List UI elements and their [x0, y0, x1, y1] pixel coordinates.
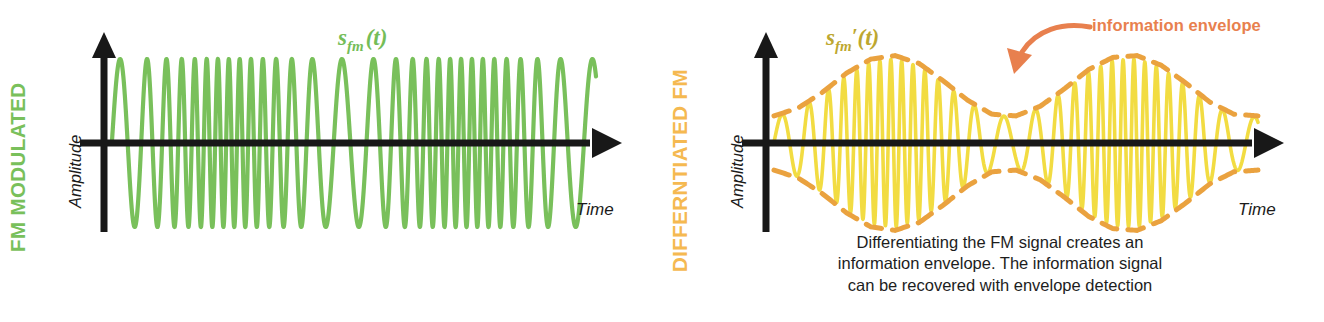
annotation-arrowhead — [1007, 48, 1032, 74]
signal-argument: (t) — [364, 25, 388, 50]
caption-line-2: information envelope. The information si… — [790, 253, 1210, 274]
caption-line-3: can be recovered with envelope detection — [790, 275, 1210, 296]
signal-argument: (t) — [858, 25, 880, 50]
fm-modulated-plot — [0, 0, 662, 322]
section-label-fm-modulated: FM MODULATED — [6, 82, 30, 252]
caption-line-1: Differentiating the FM signal creates an — [790, 232, 1210, 253]
y-axis-arrowhead — [754, 32, 778, 58]
y-axis-label-amplitude: Amplitude — [66, 135, 85, 208]
signal-subscript: fm — [835, 38, 852, 54]
x-axis-label-time: Time — [1238, 200, 1276, 220]
panel-fm-modulated: FM MODULATED Amplitude Time sfm(t) — [0, 0, 662, 322]
signal-base: s — [338, 25, 347, 50]
signal-subscript: fm — [347, 38, 364, 54]
section-label-differentiated-fm: DIFFERNTIATED FM — [668, 69, 692, 272]
signal-label-sfm: sfm(t) — [338, 26, 387, 54]
signal-label-sfm-prime: sfm′(t) — [826, 26, 879, 54]
y-axis-label-amplitude: Amplitude — [728, 135, 747, 208]
signal-base: s — [826, 25, 835, 50]
caption-differentiated-fm: Differentiating the FM signal creates an… — [790, 232, 1210, 296]
annotation-arrow-curve — [1022, 26, 1090, 52]
y-axis-arrowhead — [92, 32, 116, 58]
x-axis-arrowhead — [592, 128, 622, 158]
x-axis-arrowhead — [1254, 128, 1284, 158]
annotation-information-envelope: information envelope — [1092, 16, 1261, 35]
figure-fm-modulation: FM MODULATED Amplitude Time sfm(t) sfm′(… — [0, 0, 1324, 322]
x-axis-label-time: Time — [576, 200, 614, 220]
